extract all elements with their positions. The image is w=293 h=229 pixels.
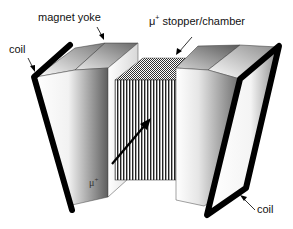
muon-charge: +: [94, 176, 98, 184]
stopper-chamber-text: stopper/chamber: [159, 15, 245, 27]
stopper-front-face: [115, 80, 176, 180]
coil-right-label: coil: [257, 204, 274, 215]
coil-left-label: coil: [9, 44, 26, 55]
muon-label: μ+: [89, 177, 98, 188]
magnet-yoke-label: magnet yoke: [38, 12, 101, 23]
magnet-yoke-text: magnet yoke: [38, 11, 101, 23]
coil-right-text: coil: [257, 203, 274, 215]
magnet-stopper-diagram: [0, 0, 293, 229]
stopper-chamber-label: μ+ stopper/chamber: [149, 14, 245, 27]
coil-left-text: coil: [9, 43, 26, 55]
